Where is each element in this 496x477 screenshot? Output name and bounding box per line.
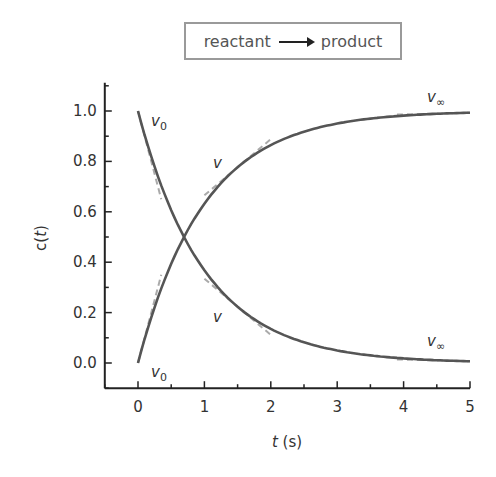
- y-tick-label: 0.0: [73, 354, 97, 372]
- x-tick-label: 2: [266, 398, 276, 416]
- chart-plot: 0.00.20.40.60.81.0012345 c(t) t (s) v0 v…: [0, 0, 496, 477]
- product-curve: [138, 113, 470, 363]
- y-tick-label: 1.0: [73, 102, 97, 120]
- tangent-lines: [138, 111, 470, 363]
- annotation-v-lower: v: [213, 308, 223, 326]
- annotation-v0-top: v0: [151, 112, 167, 133]
- x-axis-label: t (s): [272, 433, 302, 451]
- annotation-vinf-lower: v∞: [427, 332, 445, 353]
- x-tick-label: 5: [465, 398, 475, 416]
- y-axis-label: c(t): [32, 225, 50, 251]
- x-tick-label: 1: [200, 398, 210, 416]
- reactant-curve: [138, 111, 470, 361]
- annotation-v0-bottom: v0: [151, 363, 167, 384]
- y-tick-label: 0.6: [73, 203, 97, 221]
- x-tick-label: 3: [332, 398, 342, 416]
- y-tick-label: 0.2: [73, 304, 97, 322]
- y-tick-label: 0.4: [73, 253, 97, 271]
- x-tick-label: 4: [399, 398, 409, 416]
- axes: 0.00.20.40.60.81.0012345: [73, 83, 475, 416]
- y-tick-label: 0.8: [73, 152, 97, 170]
- annotation-v-upper: v: [213, 154, 223, 172]
- annotation-vinf-upper: v∞: [427, 88, 445, 109]
- x-tick-label: 0: [133, 398, 143, 416]
